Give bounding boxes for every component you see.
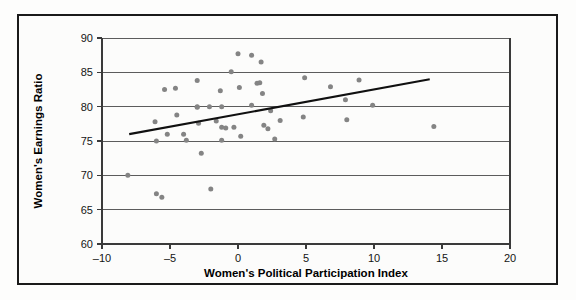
scatter-chart: –10–505101520 60657075808590 Women's Pol… xyxy=(0,0,576,300)
data-point xyxy=(219,138,224,143)
data-point xyxy=(159,195,164,200)
data-point xyxy=(173,86,178,91)
data-point xyxy=(218,88,223,93)
data-point xyxy=(237,85,242,90)
data-point xyxy=(343,97,348,102)
data-point xyxy=(231,125,236,130)
y-tick-label: 80 xyxy=(81,101,93,113)
x-axis-title: Women's Political Participation Index xyxy=(204,267,408,279)
x-tick-label: 10 xyxy=(368,252,380,264)
data-point xyxy=(344,117,349,122)
figure-root: –10–505101520 60657075808590 Women's Pol… xyxy=(0,0,576,300)
x-tick-label: 15 xyxy=(436,252,448,264)
data-point xyxy=(223,125,228,130)
data-point xyxy=(181,132,186,137)
data-point xyxy=(165,132,170,137)
data-point xyxy=(195,105,200,110)
data-point xyxy=(236,51,241,56)
data-point xyxy=(328,84,333,89)
gridlines xyxy=(102,38,510,244)
data-point xyxy=(199,151,204,156)
y-tick-label: 60 xyxy=(81,238,93,250)
data-point xyxy=(229,69,234,74)
data-point xyxy=(208,187,213,192)
y-tick-label: 75 xyxy=(81,135,93,147)
x-axis-ticks: –10–505101520 xyxy=(93,244,516,264)
data-point xyxy=(249,103,254,108)
data-point xyxy=(184,138,189,143)
data-point xyxy=(272,136,277,141)
x-tick-label: –5 xyxy=(164,252,176,264)
data-point xyxy=(195,78,200,83)
data-point xyxy=(154,191,159,196)
y-axis-title: Women's Earnings Ratio xyxy=(32,74,44,209)
x-tick-label: 0 xyxy=(235,252,241,264)
y-axis-ticks: 60657075808590 xyxy=(81,32,102,250)
data-point xyxy=(260,91,265,96)
data-point xyxy=(125,173,130,178)
data-point xyxy=(219,104,224,109)
y-tick-label: 65 xyxy=(81,204,93,216)
data-point xyxy=(301,114,306,119)
data-point xyxy=(153,119,158,124)
data-point xyxy=(207,104,212,109)
data-point xyxy=(370,103,375,108)
y-tick-label: 85 xyxy=(81,66,93,78)
data-point xyxy=(357,77,362,82)
x-tick-label: 5 xyxy=(303,252,309,264)
data-point xyxy=(302,75,307,80)
y-tick-label: 70 xyxy=(81,169,93,181)
data-point xyxy=(261,123,266,128)
x-tick-label: –10 xyxy=(93,252,111,264)
data-point xyxy=(257,80,262,85)
data-point xyxy=(259,60,264,65)
data-point xyxy=(154,139,159,144)
data-point xyxy=(238,134,243,139)
data-point xyxy=(278,118,283,123)
data-point xyxy=(431,124,436,129)
data-point xyxy=(174,112,179,117)
x-tick-label: 20 xyxy=(504,252,516,264)
y-tick-label: 90 xyxy=(81,32,93,44)
data-point xyxy=(265,126,270,131)
data-point xyxy=(249,53,254,58)
data-point xyxy=(162,87,167,92)
